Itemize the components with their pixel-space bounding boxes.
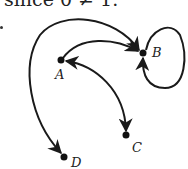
node-b [140,50,147,57]
label-b: B [151,45,162,60]
edge-b-d [30,19,139,153]
node-a [58,57,65,64]
edge-a-c [66,61,126,131]
label-d: D [70,155,82,169]
edge-a-b [63,41,138,58]
node-d [61,154,68,161]
digraph: A B C D [0,0,188,169]
edge-b-loop [143,28,184,88]
node-c [123,132,130,139]
label-c: C [132,140,142,155]
label-a: A [54,67,64,82]
